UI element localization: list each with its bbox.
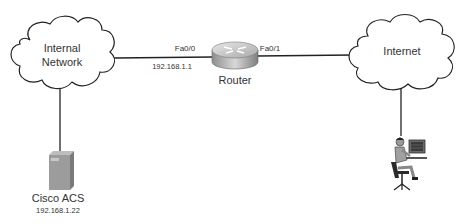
link-router-internet: [257, 55, 353, 56]
user-workstation-icon: [391, 138, 427, 191]
router-icon: [212, 42, 258, 69]
router-port-fa0-0: Fa0/0: [175, 45, 195, 53]
router-port-fa0-1: Fa0/1: [260, 45, 280, 53]
acs-label: Cisco ACS: [32, 193, 85, 204]
internal-network-label: Internal Network: [42, 43, 82, 68]
internal-network-label-line2: Network: [42, 57, 82, 68]
router-label: Router: [218, 75, 251, 86]
internal-network-label-line1: Internal: [42, 43, 82, 54]
acs-ip-label: 192.168.1.22: [36, 207, 80, 215]
network-diagram: [0, 0, 465, 224]
link-internal-router: [114, 57, 213, 58]
internet-label: Internet: [383, 46, 420, 57]
router-ip-label: 192.168.1.1: [152, 63, 192, 71]
server-icon: [49, 151, 74, 190]
